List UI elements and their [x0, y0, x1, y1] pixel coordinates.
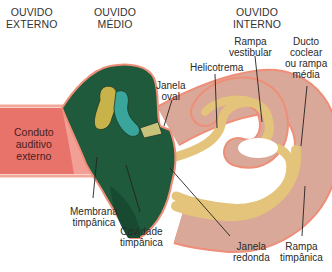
header-external-ear: OUVIDO EXTERNO	[6, 6, 57, 30]
label-scala-tympani: Rampa timpânica	[280, 241, 323, 263]
header-middle-ear: OUVIDO MÉDIO	[94, 6, 136, 30]
label-helicotrema: Helicotrema	[190, 62, 243, 73]
label-tympanic-cavity: Cavidade timpânica	[120, 226, 163, 248]
label-external-auditory-canal: Conduto auditivo externo	[14, 126, 54, 162]
label-tympanic-membrane: Membrana timpânica	[70, 206, 118, 228]
label-oval-window: Janela oval	[156, 80, 185, 102]
label-scala-vestibuli: Rampa vestibular	[229, 36, 272, 58]
label-cochlear-duct: Ducto coclear ou rampa média	[285, 36, 327, 80]
header-internal-ear: OUVIDO INTERNO	[233, 6, 281, 30]
cochlea	[168, 92, 317, 231]
label-round-window: Janela redonda	[233, 241, 270, 263]
